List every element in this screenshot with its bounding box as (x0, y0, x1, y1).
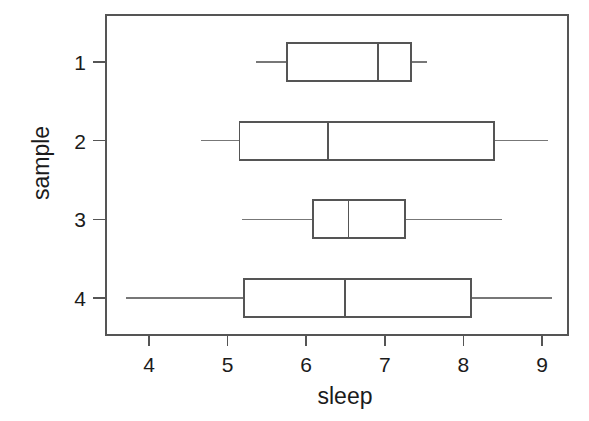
x-tick-label: 9 (536, 354, 548, 375)
plot-border (106, 15, 568, 335)
x-tick-label: 5 (222, 354, 234, 375)
boxplot-figure: 456789 1234 sleep sample (0, 0, 589, 421)
x-axis-ticks (149, 335, 542, 346)
y-axis-ticks (93, 62, 106, 298)
box-iqr (313, 200, 405, 238)
x-tick-label: 8 (458, 354, 470, 375)
y-tick-label: 3 (74, 209, 86, 230)
y-tick-label: 4 (74, 288, 86, 309)
y-tick-label: 2 (74, 130, 86, 151)
boxplot-box-4 (126, 279, 552, 317)
boxplot-box-2 (201, 122, 548, 160)
boxplot-box-1 (256, 43, 427, 81)
x-tick-label: 7 (379, 354, 391, 375)
plot-canvas (0, 0, 589, 421)
x-tick-label: 6 (300, 354, 312, 375)
y-tick-label: 1 (74, 52, 86, 73)
box-series (126, 43, 552, 317)
x-axis-title: sleep (318, 385, 373, 408)
box-iqr (287, 43, 410, 81)
y-axis-title: sample (30, 126, 53, 200)
boxplot-box-3 (242, 200, 502, 238)
plot-frame (106, 15, 568, 335)
box-iqr (239, 122, 494, 160)
box-iqr (244, 279, 471, 317)
x-tick-label: 4 (143, 354, 155, 375)
